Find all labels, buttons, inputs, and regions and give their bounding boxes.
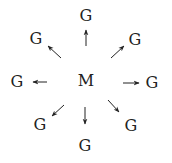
node-label-g: G [30,29,43,48]
diagram-svg: M GGGGGGGG [0,0,172,163]
node-label-g: G [80,6,93,25]
arrow-down-right-icon [108,100,119,112]
radial-diagram: M GGGGGGGG [0,0,172,163]
node-label-g: G [146,73,159,92]
center-label-m: M [78,71,94,90]
labels-group: M GGGGGGGG [11,6,159,155]
node-label-g: G [11,72,24,91]
node-label-g: G [129,30,142,49]
arrow-up-right-icon [111,46,124,58]
arrow-up-left-icon [48,46,61,58]
node-label-g: G [125,116,138,135]
node-label-g: G [79,136,92,155]
node-label-g: G [34,115,47,134]
arrow-down-left-icon [52,105,64,116]
